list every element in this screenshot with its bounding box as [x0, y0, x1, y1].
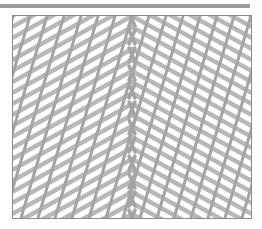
lace-knit-image — [13, 16, 251, 218]
top-rule — [0, 4, 250, 8]
lace-photo-frame — [12, 15, 252, 219]
